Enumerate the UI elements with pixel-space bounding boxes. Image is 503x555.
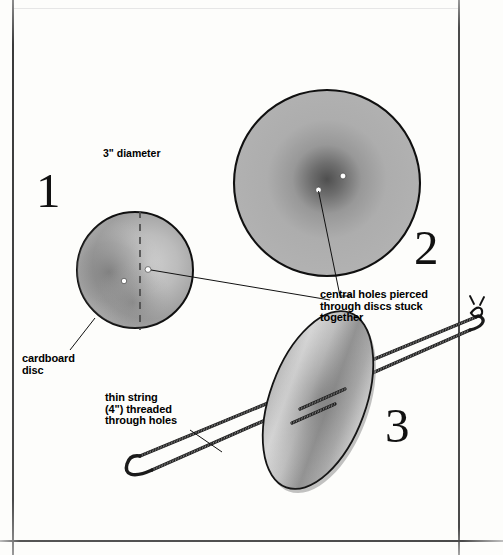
label-central-holes: central holes pierced through discs stuc… bbox=[320, 289, 428, 324]
label-thin-string: thin string (4") threaded through holes bbox=[105, 392, 177, 427]
step-number-3: 3 bbox=[385, 401, 410, 450]
label-diameter: 3" diameter bbox=[103, 148, 161, 160]
step-number-2: 2 bbox=[414, 223, 439, 272]
diagram-page: 3" diameter cardboard disc central holes… bbox=[0, 0, 503, 555]
step-number-1: 1 bbox=[36, 166, 61, 215]
diagram-artwork bbox=[0, 0, 503, 555]
string-knot-icon bbox=[470, 296, 484, 317]
label-cardboard-disc: cardboard disc bbox=[22, 353, 75, 376]
disc-2-group bbox=[234, 90, 420, 296]
